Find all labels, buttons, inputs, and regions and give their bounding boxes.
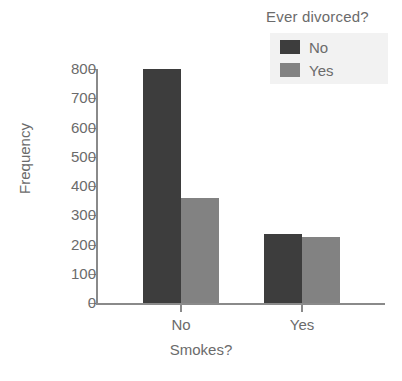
bar-yes-no[interactable] xyxy=(264,234,302,303)
y-tick-label: 600 xyxy=(50,119,96,136)
y-tick: 400 xyxy=(0,186,96,187)
y-axis-title: Frequency xyxy=(16,99,33,219)
x-tick-mark xyxy=(180,304,182,312)
y-tick: 600 xyxy=(0,128,96,129)
x-axis-line xyxy=(96,303,385,305)
y-tick: 300 xyxy=(0,215,96,216)
bar-no-no[interactable] xyxy=(143,69,181,303)
y-tick: 500 xyxy=(0,157,96,158)
bar-no-yes[interactable] xyxy=(181,198,219,303)
x-axis-title: Smokes? xyxy=(0,341,402,358)
plot-area xyxy=(98,62,385,303)
legend-swatch-no xyxy=(280,40,300,54)
y-tick-label: 200 xyxy=(50,236,96,253)
x-tick-mark xyxy=(301,304,303,312)
y-tick-label: 500 xyxy=(50,148,96,165)
y-tick: 700 xyxy=(0,98,96,99)
legend-item-no[interactable]: No xyxy=(280,36,328,58)
y-tick-label: 100 xyxy=(50,265,96,282)
y-tick-label: 400 xyxy=(50,177,96,194)
y-tick-label: 300 xyxy=(50,206,96,223)
bar-yes-yes[interactable] xyxy=(302,237,340,303)
y-tick-label: 800 xyxy=(50,60,96,77)
y-tick: 200 xyxy=(0,245,96,246)
legend-label-no: No xyxy=(309,40,328,55)
x-tick-label-yes: Yes xyxy=(262,316,342,333)
x-tick-label-no: No xyxy=(141,316,221,333)
y-tick-label: 700 xyxy=(50,89,96,106)
bar-chart: Ever divorced? No Yes 010020030040050060… xyxy=(0,0,402,381)
y-tick: 100 xyxy=(0,274,96,275)
y-tick: 0 xyxy=(0,303,96,304)
legend-title: Ever divorced? xyxy=(266,8,369,25)
y-tick: 800 xyxy=(0,69,96,70)
y-tick-label: 0 xyxy=(50,294,96,311)
